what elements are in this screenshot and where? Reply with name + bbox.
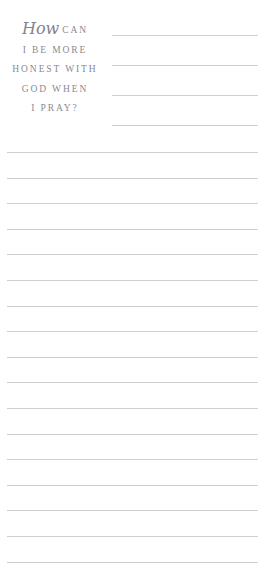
prompt-line-1-rest: CAN <box>62 25 88 35</box>
prompt-header-area: HowCAN I BE MORE HONEST WITH GOD WHEN I … <box>0 0 267 146</box>
writing-rule <box>7 536 258 537</box>
writing-rule-short <box>112 95 258 96</box>
prompt-line-2: I BE MORE <box>0 41 108 61</box>
prompt-question: HowCAN I BE MORE HONEST WITH GOD WHEN I … <box>0 19 108 119</box>
writing-rule <box>7 203 258 204</box>
prompt-line-1: HowCAN <box>0 19 108 41</box>
writing-rule <box>7 510 258 511</box>
writing-rule <box>7 357 258 358</box>
writing-rule <box>7 434 258 435</box>
writing-rule <box>7 408 258 409</box>
writing-rule <box>7 306 258 307</box>
prompt-line-4: GOD WHEN <box>0 80 108 100</box>
writing-rule <box>7 280 258 281</box>
writing-rule <box>7 485 258 486</box>
writing-rule <box>7 254 258 255</box>
journal-page: HowCAN I BE MORE HONEST WITH GOD WHEN I … <box>0 0 267 575</box>
prompt-script-word: How <box>22 19 62 38</box>
prompt-line-5: I PRAY? <box>0 99 108 119</box>
writing-rule-short <box>112 65 258 66</box>
writing-rule <box>7 178 258 179</box>
writing-rule <box>7 382 258 383</box>
writing-rule <box>7 331 258 332</box>
writing-rule-short <box>112 125 258 126</box>
writing-rule <box>7 459 258 460</box>
writing-rule <box>7 229 258 230</box>
writing-rule <box>7 152 258 153</box>
writing-rule-short <box>112 35 258 36</box>
writing-rule <box>7 562 258 563</box>
prompt-line-3: HONEST WITH <box>0 60 108 80</box>
